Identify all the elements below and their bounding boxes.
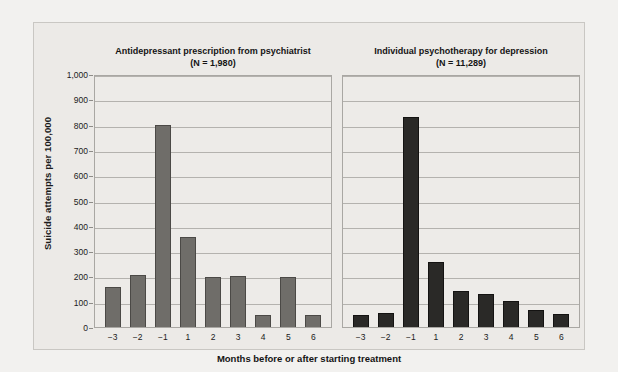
bar[interactable] (255, 315, 271, 327)
bar-slot (101, 76, 126, 327)
x-axis-tick: 4 (499, 328, 524, 346)
bar[interactable] (205, 277, 221, 327)
panel-title-right: Individual psychotherapy for depression … (328, 45, 594, 69)
bar-slot (201, 76, 226, 327)
x-axis-tick: −3 (100, 328, 125, 346)
y-axis-tick-mark (89, 75, 93, 76)
x-axis-tick: 6 (301, 328, 326, 346)
bar-slot (225, 76, 250, 327)
y-axis-tick: 1,000 (67, 70, 88, 80)
panel-title-right-sub: (N = 11,289) (328, 57, 594, 69)
bar[interactable] (130, 275, 146, 327)
x-axis-tick: −1 (398, 328, 423, 346)
bar-slot (176, 76, 201, 327)
y-axis-tick-mark (89, 227, 93, 228)
bar[interactable] (305, 315, 321, 327)
y-axis-tick: 300 (74, 247, 88, 257)
bar[interactable] (378, 313, 394, 327)
plot-area-left (94, 75, 332, 328)
x-axis-tick: 5 (276, 328, 301, 346)
bar-series-left (95, 76, 331, 327)
y-axis-tick-mark (89, 303, 93, 304)
panel-title-right-main: Individual psychotherapy for depression (328, 45, 594, 57)
x-axis-tick: −1 (150, 328, 175, 346)
bar[interactable] (428, 262, 444, 328)
y-axis-tick: 900 (74, 95, 88, 105)
bar-slot (399, 76, 424, 327)
bar[interactable] (553, 314, 569, 327)
bar-slot (449, 76, 474, 327)
y-axis-tick: 500 (74, 197, 88, 207)
x-axis-tick: 3 (226, 328, 251, 346)
bar[interactable] (478, 294, 494, 327)
chart-panel-antidepressant: Antidepressant prescription from psychia… (94, 75, 332, 328)
bar-slot (424, 76, 449, 327)
x-axis-tick: −2 (125, 328, 150, 346)
figure-container: Suicide attempts per 100,000 01002003004… (33, 22, 585, 350)
y-axis-tick: 800 (74, 121, 88, 131)
bar[interactable] (353, 315, 369, 327)
bar-slot (374, 76, 399, 327)
y-axis-tick: 200 (74, 272, 88, 282)
bar[interactable] (180, 237, 196, 327)
bar[interactable] (528, 310, 544, 327)
bar[interactable] (503, 301, 519, 327)
panel-title-left-main: Antidepressant prescription from psychia… (80, 45, 346, 57)
x-axis-tick: −3 (348, 328, 373, 346)
y-axis-tick-mark (89, 126, 93, 127)
x-axis-tick: 1 (175, 328, 200, 346)
bar-slot (349, 76, 374, 327)
bar-slot (523, 76, 548, 327)
bar[interactable] (280, 277, 296, 327)
y-axis-tick: 0 (83, 323, 88, 333)
bar[interactable] (105, 287, 121, 327)
x-axis-tick-labels-left: −3−2−1123456 (94, 328, 332, 346)
chart-panel-psychotherapy: Individual psychotherapy for depression … (342, 75, 580, 328)
y-axis-title-text: Suicide attempts per 100,000 (43, 116, 54, 249)
y-axis-tick-mark (89, 202, 93, 203)
y-axis-tick: 400 (74, 222, 88, 232)
panel-title-left: Antidepressant prescription from psychia… (80, 45, 346, 69)
bar[interactable] (453, 291, 469, 327)
x-axis-tick-labels-right: −3−2−1123456 (342, 328, 580, 346)
y-axis-tick-mark (89, 252, 93, 253)
y-axis-tick-labels: 01002003004005006007008009001,000 (54, 75, 90, 328)
x-axis-tick: 1 (423, 328, 448, 346)
bar[interactable] (403, 117, 419, 327)
y-axis-tick-mark (89, 328, 93, 329)
x-axis-tick: 4 (251, 328, 276, 346)
bar-slot (498, 76, 523, 327)
x-axis-tick: 5 (524, 328, 549, 346)
bar-slot (300, 76, 325, 327)
bar[interactable] (230, 276, 246, 327)
bar-slot (275, 76, 300, 327)
bar-slot (126, 76, 151, 327)
panel-title-left-sub: (N = 1,980) (80, 57, 346, 69)
y-axis-tick-mark (89, 151, 93, 152)
x-axis-tick: 6 (549, 328, 574, 346)
y-axis-tick-mark (89, 176, 93, 177)
bar-slot (473, 76, 498, 327)
bar[interactable] (155, 125, 171, 327)
bar-slot (250, 76, 275, 327)
y-axis-tick: 100 (74, 298, 88, 308)
y-axis-tick-mark (89, 100, 93, 101)
bar-slot (548, 76, 573, 327)
x-axis-tick: 2 (448, 328, 473, 346)
plot-area-right (342, 75, 580, 328)
x-axis-tick: 3 (474, 328, 499, 346)
bar-slot (151, 76, 176, 327)
bar-series-right (343, 76, 579, 327)
x-axis-title: Months before or after starting treatmen… (34, 353, 584, 364)
y-axis-tick: 700 (74, 146, 88, 156)
y-axis-tick-mark (89, 277, 93, 278)
x-axis-tick: 2 (200, 328, 225, 346)
x-axis-tick: −2 (373, 328, 398, 346)
y-axis-tick: 600 (74, 171, 88, 181)
